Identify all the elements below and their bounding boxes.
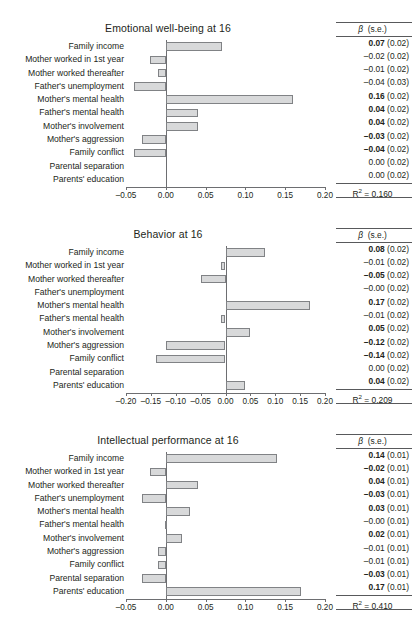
predictor-label: Mother's aggression (0, 339, 124, 352)
se-value: (0.03) (387, 77, 409, 87)
predictor-label: Family conflict (0, 352, 124, 365)
beta-value: 0.00 (368, 170, 384, 180)
x-tick (206, 187, 207, 190)
predictor-label: Mother worked thereafter (0, 479, 124, 492)
stats-row: –0.01 (0.01) (336, 542, 412, 555)
beta-value: 0.17 (368, 297, 384, 307)
bar-row (126, 299, 325, 312)
x-tick (201, 393, 202, 396)
x-tick (166, 187, 167, 190)
se-value: (0.01) (387, 503, 409, 513)
plot-area: –0.20–0.15–0.10–0.050.000.050.100.150.20 (126, 246, 325, 393)
beta-value: 0.00 (368, 363, 384, 373)
beta-value: 0.02 (368, 529, 384, 539)
x-tick-label: 0.10 (267, 397, 283, 406)
stats-column: β (s.e.)0.14 (0.01)–0.02 (0.01)0.04 (0.0… (336, 434, 412, 610)
predictor-label: Mother worked in 1st year (0, 259, 124, 272)
bar (226, 248, 266, 257)
stats-row: 0.08 (0.02) (336, 243, 412, 256)
bar (150, 56, 166, 65)
r-squared-value: 0.160 (372, 189, 393, 199)
x-tick-label: 0.00 (158, 603, 174, 612)
beta-value: 0.00 (368, 157, 384, 167)
se-value: (0.01) (387, 582, 409, 592)
regression-coefficient-figure: Emotional well-being at 16 Family income… (0, 0, 412, 624)
predictor-label: Family income (0, 40, 124, 53)
beta-value: 0.05 (368, 323, 384, 333)
predictor-label: Mother's mental health (0, 93, 124, 106)
x-tick-label: 0.00 (218, 397, 234, 406)
se-value: (0.02) (387, 131, 409, 141)
stats-row: –0.01 (0.02) (336, 63, 412, 76)
bar (166, 534, 182, 543)
stats-row: –0.03 (0.02) (336, 130, 412, 143)
bar (166, 454, 277, 463)
beta-value: –0.02 (364, 463, 385, 473)
se-value: (0.02) (387, 91, 409, 101)
predictor-label: Mother worked thereafter (0, 273, 124, 286)
stats-row: 0.04 (0.02) (336, 116, 412, 129)
panel-title: Intellectual performance at 16 (0, 434, 336, 446)
x-tick-label: 0.05 (198, 603, 214, 612)
stats-row: 0.16 (0.02) (336, 90, 412, 103)
predictor-label: Mother worked in 1st year (0, 53, 124, 66)
predictor-label: Parents' education (0, 585, 124, 598)
bar (134, 82, 166, 91)
predictor-label: Parental separation (0, 366, 124, 379)
r-squared-value: 0.410 (372, 601, 393, 611)
panel-emotional-well-being: Emotional well-being at 16 Family income… (0, 0, 412, 206)
beta-symbol: β (358, 24, 363, 34)
panel-title: Emotional well-being at 16 (0, 22, 336, 34)
r-squared-row: R2 = 0.160 (336, 184, 412, 198)
bar (226, 301, 311, 310)
stats-row: –0.05 (0.02) (336, 269, 412, 282)
bar-row (126, 67, 325, 80)
bar (142, 494, 166, 503)
stats-row: 0.00 (0.02) (336, 169, 412, 182)
predictor-label: Family income (0, 246, 124, 259)
x-tick-label: 0.20 (317, 397, 333, 406)
se-value: (0.02) (387, 297, 409, 307)
stats-row: 0.02 (0.01) (336, 528, 412, 541)
stats-row: 0.17 (0.01) (336, 581, 412, 594)
predictor-label: Father's unemployment (0, 80, 124, 93)
beta-value: –0.05 (364, 270, 385, 280)
predictor-label: Mother worked thereafter (0, 67, 124, 80)
x-axis: –0.050.000.050.100.150.20 (126, 599, 325, 600)
stats-row: 0.14 (0.01) (336, 449, 412, 462)
beta-value: 0.08 (368, 244, 384, 254)
bar-row (126, 106, 325, 119)
stats-row: 0.04 (0.01) (336, 475, 412, 488)
x-tick-label: –0.20 (116, 397, 137, 406)
x-tick (325, 393, 326, 396)
bar-row (126, 352, 325, 365)
bar-row (126, 585, 325, 598)
beta-value: –0.01 (364, 543, 385, 553)
bar-row (126, 545, 325, 558)
se-value: (0.02) (387, 170, 409, 180)
beta-value: –0.03 (364, 131, 385, 141)
predictor-label: Parents' education (0, 379, 124, 392)
stats-row: 0.03 (0.01) (336, 502, 412, 515)
bar (166, 587, 301, 596)
stats-column: β (s.e.)0.07 (0.02)–0.02 (0.02)–0.01 (0.… (336, 22, 412, 198)
x-tick-label: –0.05 (116, 603, 137, 612)
bar-row (126, 53, 325, 66)
se-value: (0.01) (387, 556, 409, 566)
bar-row (126, 479, 325, 492)
x-tick (166, 599, 167, 602)
beta-value: –0.01 (364, 310, 385, 320)
bar-row (126, 146, 325, 159)
predictor-label: Mother's mental health (0, 299, 124, 312)
bar (142, 135, 166, 144)
r-squared-row: R2 = 0.410 (336, 596, 412, 610)
stats-row: –0.01 (0.01) (336, 555, 412, 568)
stats-row: 0.04 (0.02) (336, 375, 412, 388)
predictor-label: Parental separation (0, 160, 124, 173)
x-tick-label: 0.20 (317, 603, 333, 612)
panel-intellectual-performance: Intellectual performance at 16 Family in… (0, 412, 412, 624)
beta-value: –0.01 (364, 556, 385, 566)
predictor-label: Family conflict (0, 558, 124, 571)
predictor-label: Father's unemployment (0, 492, 124, 505)
se-value: (0.01) (387, 463, 409, 473)
